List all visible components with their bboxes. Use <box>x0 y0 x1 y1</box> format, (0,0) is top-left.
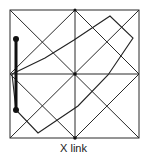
bar-bottom-node <box>13 107 19 113</box>
figure-caption: X link <box>0 141 147 155</box>
bar-top-node <box>13 36 19 42</box>
bottom-center-node <box>73 136 77 140</box>
top-center-node <box>74 9 77 12</box>
diagram-canvas <box>0 0 147 158</box>
x-link-diagram: X link <box>0 0 147 158</box>
center-node <box>73 72 77 76</box>
